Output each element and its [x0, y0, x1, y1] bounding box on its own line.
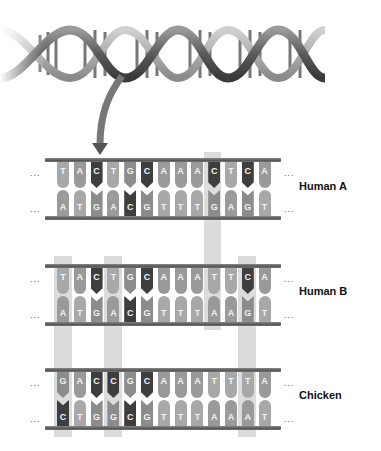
base-bottom: T [175, 400, 187, 426]
base-top: C [91, 372, 103, 398]
base-bottom: A [208, 296, 220, 322]
ellipsis-right-bottom: ... [284, 310, 295, 320]
base-bottom: T [74, 296, 86, 322]
base-pair: CG [91, 268, 103, 322]
base-pair: AT [175, 162, 187, 216]
base-top: A [259, 372, 271, 398]
dna-strand-human-b: TAATCGTAGCCGATATATTATACGAT [45, 264, 281, 326]
base-pair: AT [74, 162, 86, 216]
base-pair: GC [57, 372, 69, 426]
base-bottom: C [124, 190, 136, 216]
base-bottom: T [191, 400, 203, 426]
base-top: A [191, 268, 203, 294]
base-pair: AT [259, 372, 271, 426]
arrow-head-icon [92, 143, 108, 155]
base-top: A [158, 162, 170, 188]
base-pair: AT [259, 162, 271, 216]
base-top: A [158, 268, 170, 294]
base-top: C [141, 372, 153, 398]
base-top: A [259, 162, 271, 188]
base-bottom: T [259, 190, 271, 216]
base-bottom: G [208, 190, 220, 216]
base-top: A [191, 162, 203, 188]
base-bottom: A [57, 296, 69, 322]
base-top: G [124, 268, 136, 294]
base-bottom: G [91, 400, 103, 426]
base-top: T [107, 268, 119, 294]
backbone-bottom [45, 216, 281, 220]
base-bottom: T [74, 190, 86, 216]
base-top: T [57, 268, 69, 294]
base-pair: GC [124, 268, 136, 322]
base-bottom: T [158, 400, 170, 426]
base-bottom: G [242, 190, 254, 216]
base-pair: CG [107, 372, 119, 426]
backbone-bottom [45, 426, 281, 430]
base-pair: TA [57, 162, 69, 216]
base-bottom: T [74, 400, 86, 426]
base-bottom: T [259, 400, 271, 426]
base-top: A [259, 268, 271, 294]
base-top: G [124, 372, 136, 398]
base-bottom: T [191, 296, 203, 322]
ellipsis-right-top: ... [284, 378, 295, 388]
base-bottom: T [191, 190, 203, 216]
base-bottom: C [124, 400, 136, 426]
base-pair: TA [208, 372, 220, 426]
base-top: T [225, 162, 237, 188]
base-pair: CG [242, 162, 254, 216]
base-pair: TA [107, 268, 119, 322]
base-top: T [225, 372, 237, 398]
base-bottom: A [57, 190, 69, 216]
base-top: C [242, 162, 254, 188]
ellipsis-left-top: ... [30, 168, 41, 178]
base-pair: AT [175, 268, 187, 322]
base-bottom: T [158, 190, 170, 216]
base-top: T [242, 372, 254, 398]
base-bottom: A [208, 400, 220, 426]
backbone-bottom [45, 322, 281, 326]
base-top: C [141, 268, 153, 294]
base-top: A [175, 372, 187, 398]
base-bottom: A [107, 296, 119, 322]
base-top: T [208, 268, 220, 294]
ellipsis-left-top: ... [30, 274, 41, 284]
base-pair: GC [124, 162, 136, 216]
base-pair: AT [259, 268, 271, 322]
base-bottom: T [175, 190, 187, 216]
base-bottom: G [141, 296, 153, 322]
base-bottom: G [242, 296, 254, 322]
base-top: A [175, 162, 187, 188]
base-top: C [107, 372, 119, 398]
base-top: G [57, 372, 69, 398]
base-bottom: G [107, 400, 119, 426]
base-pair: CG [91, 372, 103, 426]
base-pair: TA [57, 268, 69, 322]
base-pair: TA [225, 268, 237, 322]
base-pair: AT [74, 372, 86, 426]
base-bottom: A [242, 400, 254, 426]
dna-helix-illustration [0, 0, 381, 160]
base-bottom: A [225, 296, 237, 322]
base-top: C [242, 268, 254, 294]
base-top: C [91, 268, 103, 294]
dna-strand-chicken: GCATCGCGGCCGATATATTATATAAT [45, 368, 281, 430]
base-pair: CG [141, 372, 153, 426]
base-pair: CG [91, 162, 103, 216]
base-pair: TA [225, 162, 237, 216]
base-bottom: T [259, 296, 271, 322]
base-top: C [208, 162, 220, 188]
base-bottom: T [175, 296, 187, 322]
base-bottom: C [57, 400, 69, 426]
base-pair: AT [191, 268, 203, 322]
ellipsis-right-bottom: ... [284, 204, 295, 214]
label-chicken: Chicken [299, 389, 342, 401]
base-pair: TA [208, 268, 220, 322]
base-pair: TA [242, 372, 254, 426]
base-top: T [225, 268, 237, 294]
base-bottom: A [225, 400, 237, 426]
base-pair: CG [208, 162, 220, 216]
base-pair: GC [124, 372, 136, 426]
base-pair: AT [191, 372, 203, 426]
base-pair: TA [107, 162, 119, 216]
